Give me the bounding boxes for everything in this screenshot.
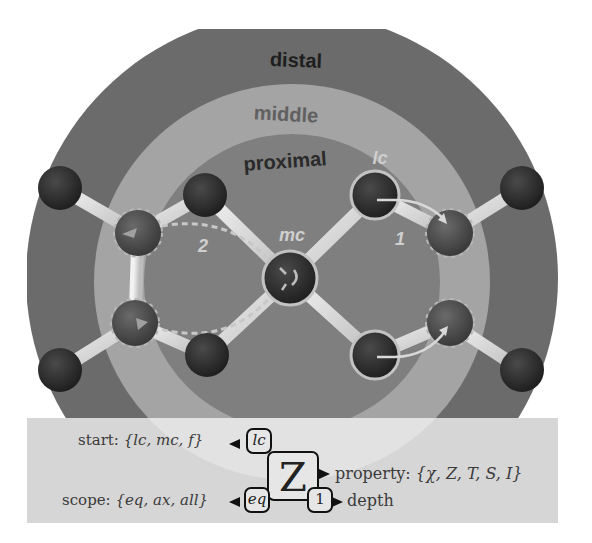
atom-lc-lower xyxy=(351,331,399,379)
middle-label: middle xyxy=(253,101,319,126)
atom-left-ring-bottom xyxy=(112,300,158,346)
rac-descriptor-diagram: distal middle proximal xyxy=(0,0,592,543)
atom-left-ring-top xyxy=(115,210,161,256)
atom-left-upper xyxy=(183,173,227,217)
atom-outer-right-top xyxy=(500,166,544,210)
property-label: property: xyxy=(335,464,411,483)
path-1-label: 1 xyxy=(395,229,405,249)
property-legend: property: {χ, Z, T, S, I} xyxy=(335,464,522,483)
atom-left-lower xyxy=(185,333,229,377)
lc-label: lc xyxy=(372,148,387,168)
scope-pointer-icon xyxy=(229,497,240,507)
scope-legend: scope: {eq, ax, all} xyxy=(62,491,208,509)
atom-lc-upper xyxy=(351,171,399,219)
start-set: {lc, mc, f} xyxy=(124,431,204,449)
start-label: start: xyxy=(78,431,119,449)
scope-label: scope: xyxy=(62,491,111,509)
scope-badge: eq xyxy=(244,487,270,513)
depth-legend: depth xyxy=(347,491,394,510)
start-pointer-icon xyxy=(229,439,240,449)
atom-outer-right-bottom xyxy=(500,348,544,392)
atom-right-ring-top xyxy=(427,210,473,256)
start-badge: lc xyxy=(246,428,272,454)
mc-label: mc xyxy=(279,225,305,245)
atom-outer-left-bottom xyxy=(38,348,82,392)
distal-label: distal xyxy=(270,48,323,72)
atom-mc xyxy=(263,251,317,305)
property-set: {χ, Z, T, S, I} xyxy=(416,464,523,483)
depth-badge: 1 xyxy=(307,487,333,513)
property-pointer-icon xyxy=(319,469,330,479)
start-legend: start: {lc, mc, f} xyxy=(78,431,203,449)
atom-right-ring-bottom xyxy=(427,300,473,346)
path-2-label: 2 xyxy=(197,236,208,256)
depth-pointer-icon xyxy=(332,497,343,507)
scope-set: {eq, ax, all} xyxy=(115,491,208,509)
atom-outer-left-top xyxy=(38,166,82,210)
